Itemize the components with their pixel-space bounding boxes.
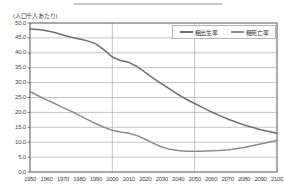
y-tick-label: 35.0 — [2, 64, 26, 70]
data-series — [30, 29, 277, 151]
y-tick-label: 5.0 — [2, 154, 26, 160]
y-tick-label: 40.0 — [2, 49, 26, 55]
y-tick-label: 50.0 — [2, 20, 26, 26]
y-tick-label: 10.0 — [2, 139, 26, 145]
chart-legend: 粗出生率 粗死亡率 — [172, 25, 276, 39]
grid-lines — [30, 23, 277, 172]
x-tick-label: 2100 — [266, 176, 284, 182]
legend-swatch-death-rate — [231, 31, 244, 33]
chart-container: (人口千人あたり) 粗出生率 粗死亡率 50.045.040.035.030.0… — [0, 0, 284, 195]
y-tick-label: 45.0 — [2, 34, 26, 40]
line-birth-rate — [30, 29, 277, 133]
legend-item-birth-rate: 粗出生率 — [180, 28, 218, 37]
legend-label-birth-rate: 粗出生率 — [195, 28, 218, 37]
legend-swatch-birth-rate — [180, 31, 193, 33]
y-tick-label: 0.0 — [2, 169, 26, 175]
y-tick-label: 20.0 — [2, 109, 26, 115]
y-tick-label: 30.0 — [2, 79, 26, 85]
y-tick-label: 25.0 — [2, 94, 26, 100]
y-tick-label: 15.0 — [2, 124, 26, 130]
legend-label-death-rate: 粗死亡率 — [246, 28, 269, 37]
legend-item-death-rate: 粗死亡率 — [231, 28, 269, 37]
